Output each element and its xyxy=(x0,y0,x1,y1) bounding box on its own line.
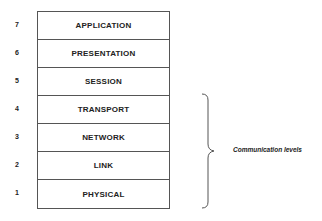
layer-number-6: 6 xyxy=(12,39,22,67)
layer-number-3: 3 xyxy=(12,123,22,151)
osi-layer-stack: APPLICATION PRESENTATION SESSION TRANSPO… xyxy=(37,11,170,209)
layer-number-2: 2 xyxy=(12,151,22,179)
layer-link: LINK xyxy=(38,152,169,180)
curly-brace-icon xyxy=(200,92,220,210)
layer-number-1: 1 xyxy=(12,179,22,207)
layer-session: SESSION xyxy=(38,68,169,96)
layer-presentation: PRESENTATION xyxy=(38,40,169,68)
layer-transport: TRANSPORT xyxy=(38,96,169,124)
layer-network: NETWORK xyxy=(38,124,169,152)
communication-levels-label: Communication levels xyxy=(233,146,302,153)
layer-physical: PHYSICAL xyxy=(38,180,169,208)
layer-application: APPLICATION xyxy=(38,12,169,40)
layer-number-4: 4 xyxy=(12,95,22,123)
layer-number-5: 5 xyxy=(12,67,22,95)
layer-number-7: 7 xyxy=(12,11,22,39)
